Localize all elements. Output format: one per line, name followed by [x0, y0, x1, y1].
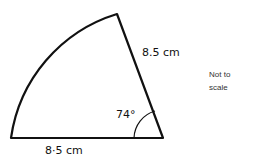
not-to-scale-line1: Not to [209, 70, 231, 79]
sector-diagram: 8.5 cm 74° 8·5 cm Not to scale [0, 0, 257, 163]
radius-label-bottom: 8·5 cm [45, 144, 83, 157]
not-to-scale-line2: scale [209, 83, 228, 92]
angle-arc [134, 111, 155, 138]
sector-outline [11, 14, 163, 138]
angle-label: 74° [116, 108, 136, 121]
radius-label-top: 8.5 cm [142, 46, 180, 59]
